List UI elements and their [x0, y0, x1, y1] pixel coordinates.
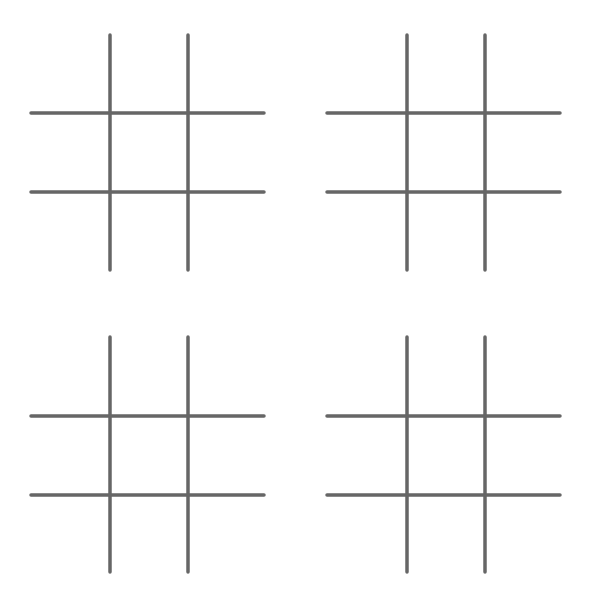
board-cell[interactable]: [488, 116, 557, 189]
board-cell[interactable]: [191, 340, 261, 413]
board-cell[interactable]: [410, 116, 482, 189]
board-cell[interactable]: [410, 340, 482, 413]
board-cell[interactable]: [191, 498, 261, 569]
board-cell[interactable]: [410, 38, 482, 110]
board-cell[interactable]: [488, 419, 557, 492]
board-cell[interactable]: [113, 38, 185, 110]
board-cell[interactable]: [34, 498, 107, 569]
board-cell[interactable]: [113, 195, 185, 267]
board-cell[interactable]: [410, 498, 482, 569]
board-cell[interactable]: [488, 195, 557, 267]
board-cell[interactable]: [330, 340, 404, 413]
board-cell[interactable]: [113, 116, 185, 189]
board-cell[interactable]: [113, 340, 185, 413]
board-cell[interactable]: [34, 38, 107, 110]
tic-tac-toe-board-bottom-right: [327, 337, 560, 572]
board-cell[interactable]: [330, 116, 404, 189]
board-cell[interactable]: [330, 195, 404, 267]
board-cell[interactable]: [488, 38, 557, 110]
board-cell[interactable]: [34, 419, 107, 492]
board-cell[interactable]: [191, 195, 261, 267]
board-cell[interactable]: [191, 419, 261, 492]
board-cell[interactable]: [113, 498, 185, 569]
board-cell[interactable]: [488, 498, 557, 569]
board-cell[interactable]: [34, 195, 107, 267]
board-cell[interactable]: [113, 419, 185, 492]
board-cell[interactable]: [410, 419, 482, 492]
board-cell[interactable]: [330, 419, 404, 492]
board-cell[interactable]: [34, 340, 107, 413]
tic-tac-toe-board-top-right: [327, 35, 560, 270]
board-cell[interactable]: [410, 195, 482, 267]
board-cell[interactable]: [488, 340, 557, 413]
board-cell[interactable]: [330, 38, 404, 110]
board-cell[interactable]: [191, 116, 261, 189]
board-cell[interactable]: [34, 116, 107, 189]
tic-tac-toe-board-top-left: [31, 35, 264, 270]
board-cell[interactable]: [191, 38, 261, 110]
board-cell[interactable]: [330, 498, 404, 569]
tic-tac-toe-board-bottom-left: [31, 337, 264, 572]
